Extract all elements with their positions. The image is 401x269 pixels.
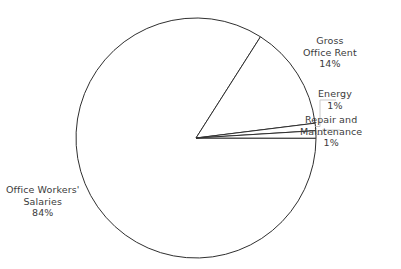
pie-label-gross-office-rent-line1: Gross bbox=[303, 35, 357, 47]
pie-label-repair-maintenance-value: 1% bbox=[300, 137, 362, 149]
pie-label-energy-line1: Energy bbox=[318, 88, 352, 100]
pie-label-office-workers-salaries: Office Workers' Salaries 84% bbox=[6, 184, 79, 219]
pie-label-gross-office-rent-line2: Office Rent bbox=[303, 47, 357, 59]
pie-chart: Gross Office Rent 14% Energy 1% Repair a… bbox=[0, 0, 401, 269]
pie-label-energy-value: 1% bbox=[318, 100, 352, 112]
pie-label-office-workers-salaries-line2: Salaries bbox=[6, 196, 79, 208]
pie-label-repair-maintenance-line1: Repair and bbox=[300, 114, 362, 126]
pie-label-gross-office-rent-value: 14% bbox=[303, 58, 357, 70]
pie-label-office-workers-salaries-value: 84% bbox=[6, 207, 79, 219]
pie-label-repair-maintenance: Repair and Maintenance 1% bbox=[300, 114, 362, 149]
pie-label-gross-office-rent: Gross Office Rent 14% bbox=[303, 35, 357, 70]
pie-label-repair-maintenance-line2: Maintenance bbox=[300, 126, 362, 138]
pie-label-energy: Energy 1% bbox=[318, 88, 352, 111]
pie-label-office-workers-salaries-line1: Office Workers' bbox=[6, 184, 79, 196]
